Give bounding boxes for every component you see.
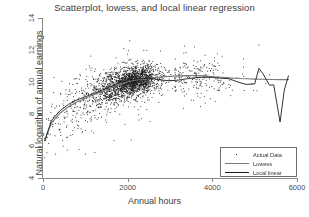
- x-tick: [128, 178, 129, 182]
- x-tick: [43, 178, 44, 182]
- y-tick-label: 8: [27, 112, 36, 116]
- chart-figure: Scatterplot, lowess, and local linear re…: [0, 0, 309, 217]
- line-marker-icon: [224, 168, 250, 177]
- legend-label: Lowess: [250, 161, 272, 167]
- y-tick: [38, 146, 42, 147]
- x-tick-label: 4000: [204, 183, 221, 192]
- y-tick: [38, 50, 42, 51]
- y-tick-label: 14: [27, 14, 36, 22]
- legend-item-local-linear: Local linear: [224, 168, 293, 177]
- legend-label: Actual Data: [250, 152, 282, 158]
- x-tick-label: 6000: [289, 183, 306, 192]
- y-tick-label: 10: [27, 78, 36, 86]
- point-marker-icon: [224, 150, 250, 159]
- x-tick: [212, 178, 213, 182]
- line-marker-icon: [224, 159, 250, 168]
- legend-label: Local linear: [250, 170, 282, 176]
- y-tick: [38, 18, 42, 19]
- chart-legend[interactable]: Actual Data Lowess Local linear: [220, 147, 297, 177]
- x-axis-title: Annual hours: [0, 196, 309, 206]
- legend-item-actual-data: Actual Data: [224, 150, 293, 159]
- y-tick: [38, 82, 42, 83]
- y-tick: [38, 114, 42, 115]
- y-tick-label: 4: [27, 176, 36, 180]
- x-axis-spine: [42, 178, 297, 179]
- y-tick: [38, 178, 42, 179]
- legend-item-lowess: Lowess: [224, 159, 293, 168]
- x-tick-label: 0: [41, 183, 45, 192]
- x-tick-label: 2000: [119, 183, 136, 192]
- x-tick: [297, 178, 298, 182]
- chart-title: Scatterplot, lowess, and local linear re…: [0, 2, 309, 13]
- y-tick-label: 12: [27, 46, 36, 54]
- y-tick-label: 6: [27, 144, 36, 148]
